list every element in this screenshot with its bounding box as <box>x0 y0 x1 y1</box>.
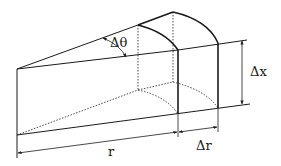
r-label: r <box>108 144 115 159</box>
hidden-radial-bottom <box>17 90 138 135</box>
hidden-bottom-back <box>138 82 173 90</box>
inner-arc <box>138 25 178 50</box>
middle-radial-edge <box>17 50 178 69</box>
outer-arc <box>173 12 218 43</box>
hidden-inner-arc <box>138 90 178 114</box>
top-plane-extension <box>178 40 247 50</box>
hidden-edges <box>17 12 218 135</box>
delta-x-label: Δx <box>250 64 267 79</box>
delta-theta-label: Δθ <box>110 35 127 50</box>
r-dimension <box>18 132 177 153</box>
bottom-edge <box>17 104 250 135</box>
delta-r-label: Δr <box>196 138 212 153</box>
volume-element-diagram: Δθ Δx r Δr <box>0 0 281 166</box>
hidden-outer-arc <box>173 82 218 108</box>
top-back-edge <box>138 12 173 25</box>
block-solid-edges <box>138 12 218 114</box>
delta-r-dimension <box>179 127 217 132</box>
